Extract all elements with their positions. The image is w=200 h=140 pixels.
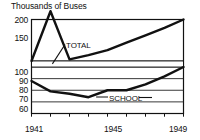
chart-container: Thousands of Buses 200 150 100 90 80 70 … — [0, 0, 200, 140]
data-series-lines — [32, 11, 184, 97]
chart-plot-area — [0, 0, 200, 140]
